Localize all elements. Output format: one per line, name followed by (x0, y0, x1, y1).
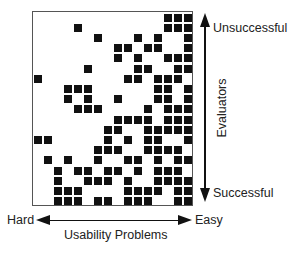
matrix-cell (154, 44, 162, 52)
matrix-cell (134, 116, 142, 124)
matrix-cell (174, 105, 182, 113)
matrix-cell (124, 156, 132, 164)
matrix-cell (34, 136, 42, 144)
matrix-cell (54, 167, 62, 175)
matrix-cell (174, 116, 182, 124)
matrix-cell (104, 136, 112, 144)
matrix-cell (74, 167, 82, 175)
matrix-cell (84, 105, 92, 113)
matrix-cell (144, 116, 152, 124)
matrix-cell (184, 105, 192, 113)
matrix-cell (164, 105, 172, 113)
matrix-cell (154, 136, 162, 144)
matrix-cell (164, 146, 172, 154)
matrix-cell (174, 156, 182, 164)
matrix-cell (134, 167, 142, 175)
matrix-cell (184, 34, 192, 42)
matrix-cell (74, 24, 82, 32)
matrix-cell (54, 197, 62, 205)
evaluators-axis-line (204, 22, 206, 192)
matrix-cell (104, 177, 112, 185)
matrix-cell (184, 177, 192, 185)
matrix-cell (74, 105, 82, 113)
matrix-cell (144, 44, 152, 52)
matrix-cell (184, 54, 192, 62)
matrix-cell (134, 34, 142, 42)
matrix-cell (114, 146, 122, 154)
matrix-cell (164, 24, 172, 32)
matrix-cell (94, 177, 102, 185)
matrix-cell (124, 177, 132, 185)
matrix-cell (174, 14, 182, 22)
matrix-cell (64, 95, 72, 103)
matrix-cell (184, 156, 192, 164)
matrix-cell (144, 197, 152, 205)
matrix-cell (164, 54, 172, 62)
matrix-cell (144, 146, 152, 154)
matrix-cell (154, 75, 162, 83)
matrix-cell (94, 105, 102, 113)
matrix-cell (104, 167, 112, 175)
matrix-cell (114, 44, 122, 52)
matrix-cell (74, 197, 82, 205)
matrix-cell (134, 187, 142, 195)
arrow-right-icon (178, 215, 192, 225)
matrix-cell (184, 136, 192, 144)
matrix-cell (134, 54, 142, 62)
matrix-cell (134, 65, 142, 73)
matrix-cell (144, 126, 152, 134)
matrix-cell (64, 187, 72, 195)
matrix-cell (154, 167, 162, 175)
matrix-cell (74, 187, 82, 195)
matrix-cell (94, 156, 102, 164)
matrix-cell (154, 187, 162, 195)
matrix-cell (104, 126, 112, 134)
matrix-cell (114, 126, 122, 134)
matrix-cell (174, 24, 182, 32)
matrix-cell (184, 14, 192, 22)
matrix-cell (54, 177, 62, 185)
matrix-cell (64, 197, 72, 205)
matrix-cell (174, 167, 182, 175)
matrix-cell (134, 197, 142, 205)
matrix-cell (164, 14, 172, 22)
matrix-cell (44, 136, 52, 144)
matrix-cell (184, 24, 192, 32)
matrix-cell (54, 187, 62, 195)
matrix-cell (64, 85, 72, 93)
matrix-cell (164, 177, 172, 185)
matrix-cell (184, 197, 192, 205)
matrix-cell (114, 95, 122, 103)
matrix-cell (114, 54, 122, 62)
matrix-cell (184, 65, 192, 73)
matrix-cell (164, 116, 172, 124)
matrix-cell (124, 44, 132, 52)
matrix-cell (174, 146, 182, 154)
matrix-cell (104, 146, 112, 154)
matrix-cell (74, 85, 82, 93)
matrix-cell (144, 187, 152, 195)
hard-label: Hard (7, 213, 34, 227)
evaluators-axis-label: Evaluators (215, 78, 229, 137)
matrix-cell (94, 197, 102, 205)
matrix-cell (84, 85, 92, 93)
successful-label: Successful (213, 186, 273, 200)
matrix-cell (84, 95, 92, 103)
matrix-cell (164, 95, 172, 103)
matrix-cell (134, 156, 142, 164)
matrix-cell (84, 167, 92, 175)
usability-problems-axis-label: Usability Problems (64, 228, 168, 242)
unsuccessful-label: Unsuccessful (213, 21, 287, 35)
matrix-cell (184, 116, 192, 124)
matrix-cell (154, 95, 162, 103)
matrix-cell (184, 187, 192, 195)
matrix-cell (34, 75, 42, 83)
matrix-cell (94, 34, 102, 42)
matrix-cell (174, 197, 182, 205)
matrix-cell (124, 75, 132, 83)
matrix-cell (114, 167, 122, 175)
matrix-cell (174, 187, 182, 195)
matrix-cell (154, 34, 162, 42)
matrix-cell (164, 85, 172, 93)
matrix-cell (164, 126, 172, 134)
